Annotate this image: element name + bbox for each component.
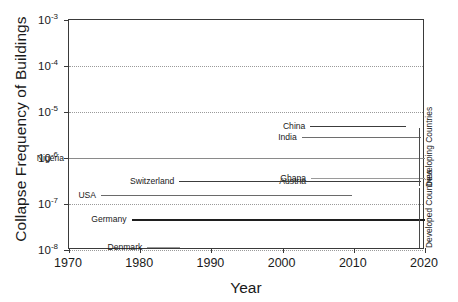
y-tick: [64, 20, 69, 21]
series-line-india: [302, 137, 421, 138]
series-line-denmark: [147, 247, 180, 248]
series-label-germany: Germany: [70, 214, 127, 224]
x-axis-title: Year: [68, 279, 424, 297]
bracket-developing-countries: [419, 128, 420, 187]
series-line-ghana: [311, 178, 425, 179]
y-tick: [64, 204, 69, 205]
chart-figure: Collapse Frequency of Buildings Year 10-…: [0, 0, 458, 302]
y-tick: [64, 66, 69, 67]
series-label-usa: USA: [39, 190, 96, 200]
series-line-china: [310, 126, 405, 127]
series-label-china: China: [248, 121, 305, 131]
series-line-germany: [132, 219, 425, 221]
gridline-y: [69, 112, 423, 113]
y-tick: [64, 112, 69, 113]
annotation-developed-countries: Developed Countries: [424, 170, 434, 248]
y-tick-label: 10-3: [16, 12, 58, 26]
x-tick: [425, 248, 426, 253]
plot-area: ChinaIndiaNigeriaGhanaAustriaSwitzerland…: [68, 19, 424, 249]
series-label-nigeria: Nigeria: [7, 153, 64, 163]
series-line-usa: [101, 195, 352, 196]
x-tick: [211, 248, 212, 253]
x-tick: [283, 248, 284, 253]
y-axis-title: Collapse Frequency of Buildings: [12, 4, 30, 254]
y-tick-label: 10-5: [16, 104, 58, 118]
series-label-denmark: Denmark: [85, 242, 142, 252]
y-tick-label: 10-8: [16, 242, 58, 256]
gridline-y: [69, 204, 423, 205]
bracket-developed-countries: [419, 188, 420, 248]
series-line-nigeria: [69, 158, 425, 159]
x-tick-label: 2020: [399, 256, 449, 270]
x-tick-label: 2010: [328, 256, 378, 270]
x-tick: [69, 248, 70, 253]
gridline-y: [69, 66, 423, 67]
x-tick-label: 1980: [114, 256, 164, 270]
series-label-switzerland: Switzerland: [117, 176, 174, 186]
series-line-switzerland: [179, 181, 421, 182]
series-label-india: India: [240, 132, 297, 142]
y-tick-label: 10-4: [16, 58, 58, 72]
x-tick-label: 1970: [43, 256, 93, 270]
x-tick-label: 2000: [257, 256, 307, 270]
x-tick: [354, 248, 355, 253]
x-tick-label: 1990: [185, 256, 235, 270]
